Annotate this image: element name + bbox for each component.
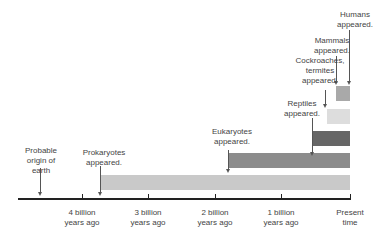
earth-origin-label: Probable origin of earth: [18, 146, 64, 176]
tick-2-billion: [215, 194, 216, 199]
mammals-bar: [336, 86, 350, 101]
time-axis: [18, 198, 351, 200]
reptiles-label: Reptiles appeared.: [276, 99, 328, 119]
prokaryotes-bar: [100, 175, 350, 190]
tick-4-billion: [82, 194, 83, 199]
reptiles-arrow-icon: [312, 118, 313, 153]
eukaryotes-arrow-icon: [228, 150, 229, 170]
humans-label: Humans appeared.: [330, 10, 380, 30]
tick-1-billion: [281, 194, 282, 199]
cockroaches-label: Cockroaches, termites appeared.: [290, 56, 350, 86]
reptiles-bar: [312, 131, 350, 146]
eukaryotes-label: Eukaryotes appeared.: [204, 127, 260, 147]
eukaryotes-bar: [228, 153, 350, 168]
tick-3-billion: [148, 194, 149, 199]
tick-label-3-billion: 3 billion years ago: [113, 208, 183, 228]
tick-present: [350, 194, 351, 199]
prokaryotes-arrow-icon: [100, 166, 101, 193]
tick-label-present: Present time: [315, 208, 382, 228]
tick-label-4-billion: 4 billion years ago: [47, 208, 117, 228]
cockroaches-bar: [327, 109, 350, 124]
mammals-label: Mammals appeared.: [306, 36, 358, 56]
tick-label-1-billion: 1 billion years ago: [246, 208, 316, 228]
tick-label-2-billion: 2 billion years ago: [180, 208, 250, 228]
prokaryotes-label: Prokaryotes appeared.: [76, 148, 132, 168]
